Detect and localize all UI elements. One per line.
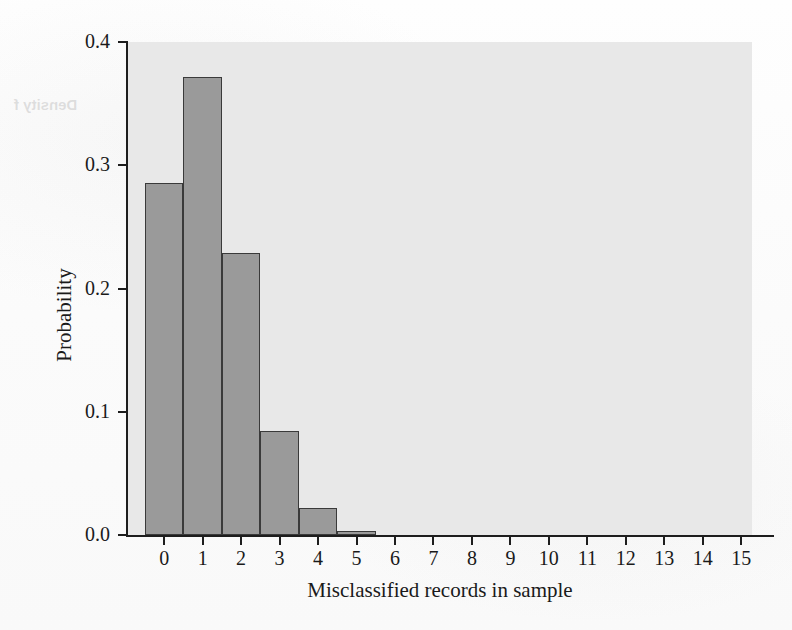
x-tick-label-2: 2 bbox=[221, 548, 261, 568]
bar-0 bbox=[145, 183, 183, 535]
x-tick-4 bbox=[317, 536, 319, 545]
x-tick-label-11: 11 bbox=[567, 548, 607, 568]
x-tick-label-8: 8 bbox=[452, 548, 492, 568]
x-tick-label-10: 10 bbox=[529, 548, 569, 568]
y-tick-0.4 bbox=[118, 41, 127, 43]
x-tick-label-15: 15 bbox=[721, 548, 761, 568]
bar-2 bbox=[222, 253, 260, 535]
bar-1 bbox=[183, 77, 221, 535]
x-tick-label-4: 4 bbox=[298, 548, 338, 568]
x-tick-label-6: 6 bbox=[375, 548, 415, 568]
x-tick-11 bbox=[586, 536, 588, 545]
x-tick-3 bbox=[279, 536, 281, 545]
x-tick-0 bbox=[163, 536, 165, 545]
x-tick-10 bbox=[548, 536, 550, 545]
x-tick-12 bbox=[625, 536, 627, 545]
x-tick-label-5: 5 bbox=[337, 548, 377, 568]
x-tick-1 bbox=[202, 536, 204, 545]
y-tick-label-0.4: 0.4 bbox=[58, 31, 110, 51]
x-axis-line bbox=[126, 535, 774, 537]
x-tick-13 bbox=[663, 536, 665, 545]
y-tick-label-0.0: 0.0 bbox=[58, 524, 110, 544]
x-tick-label-12: 12 bbox=[606, 548, 646, 568]
y-axis-title: Probability bbox=[52, 268, 77, 361]
x-axis-title: Misclassified records in sample bbox=[128, 578, 752, 603]
y-tick-0.3 bbox=[118, 164, 127, 166]
x-tick-7 bbox=[432, 536, 434, 545]
x-tick-label-9: 9 bbox=[490, 548, 530, 568]
ghost-text-top: Density f bbox=[14, 96, 77, 113]
x-tick-2 bbox=[240, 536, 242, 545]
y-tick-label-0.3: 0.3 bbox=[58, 154, 110, 174]
y-tick-0.2 bbox=[118, 288, 127, 290]
x-tick-label-7: 7 bbox=[413, 548, 453, 568]
x-tick-label-0: 0 bbox=[144, 548, 184, 568]
x-tick-9 bbox=[509, 536, 511, 545]
bar-3 bbox=[260, 431, 298, 535]
x-tick-label-13: 13 bbox=[644, 548, 684, 568]
x-tick-label-1: 1 bbox=[183, 548, 223, 568]
chart-page: Density f ulation sample 0.00.10.20.30.4… bbox=[0, 0, 792, 630]
x-tick-5 bbox=[356, 536, 358, 545]
y-tick-0.1 bbox=[118, 411, 127, 413]
bar-4 bbox=[299, 508, 337, 535]
x-tick-15 bbox=[740, 536, 742, 545]
x-tick-14 bbox=[702, 536, 704, 545]
x-tick-label-14: 14 bbox=[683, 548, 723, 568]
y-tick-label-0.1: 0.1 bbox=[58, 401, 110, 421]
y-tick-0.0 bbox=[118, 534, 127, 536]
x-tick-label-3: 3 bbox=[260, 548, 300, 568]
x-tick-8 bbox=[471, 536, 473, 545]
x-tick-6 bbox=[394, 536, 396, 545]
